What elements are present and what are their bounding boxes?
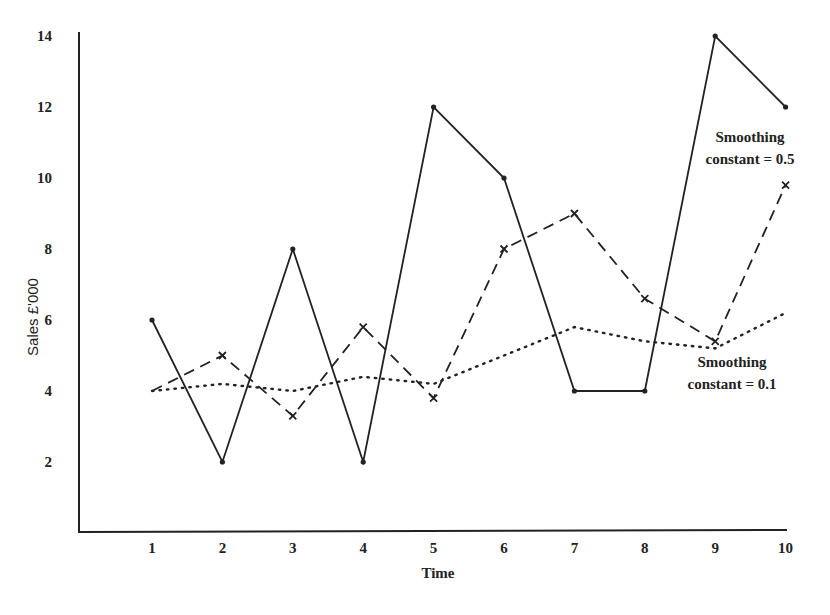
- x-tick-label: 4: [359, 540, 367, 556]
- y-tick-label: 14: [37, 28, 53, 44]
- y-tick-label: 4: [45, 383, 53, 399]
- series-lines: [149, 33, 789, 464]
- data-point-x-icon: [712, 338, 719, 345]
- data-point-dot-icon: [361, 459, 366, 464]
- x-tick-label: 2: [219, 540, 227, 556]
- y-tick-label: 12: [37, 99, 52, 115]
- annotation-text: Smoothing: [697, 354, 767, 370]
- data-point-x-icon: [501, 246, 508, 253]
- annotation-text: constant = 0.5: [706, 151, 795, 167]
- y-tick-label: 2: [45, 454, 53, 470]
- annotation-text: Smoothing: [715, 129, 785, 145]
- data-point-dot-icon: [501, 175, 506, 180]
- data-point-dot-icon: [220, 459, 225, 464]
- x-tick-label: 3: [289, 540, 297, 556]
- data-point-dot-icon: [713, 33, 718, 38]
- x-tick-label: 10: [778, 540, 793, 556]
- annotations: Smoothingconstant = 0.5Smoothingconstant…: [688, 129, 795, 392]
- annotation-text: constant = 0.1: [688, 376, 777, 392]
- series-line: [152, 36, 786, 462]
- data-point-x-icon: [430, 395, 437, 402]
- x-tick-label: 5: [430, 540, 438, 556]
- data-point-x-icon: [641, 295, 648, 302]
- series-solid: [149, 33, 788, 464]
- y-tick-labels: 2468101214: [37, 28, 53, 470]
- x-axis-label: Time: [421, 565, 454, 581]
- data-point-x-icon: [782, 182, 789, 189]
- data-point-x-icon: [571, 210, 578, 217]
- data-point-dot-icon: [783, 104, 788, 109]
- x-tick-label: 9: [711, 540, 719, 556]
- x-tick-label: 1: [148, 540, 156, 556]
- x-axis-line: [78, 530, 787, 532]
- data-point-dot-icon: [149, 317, 154, 322]
- data-point-dot-icon: [642, 388, 647, 393]
- data-point-x-icon: [219, 352, 226, 359]
- y-tick-label: 6: [45, 312, 53, 328]
- y-tick-label: 10: [37, 170, 52, 186]
- data-point-x-icon: [289, 412, 296, 419]
- data-point-dot-icon: [572, 388, 577, 393]
- x-tick-label: 7: [571, 540, 579, 556]
- data-point-dot-icon: [431, 104, 436, 109]
- data-point-x-icon: [360, 324, 367, 331]
- y-axis-label: Sales £'000: [24, 278, 41, 356]
- exponential-smoothing-chart: 2468101214 12345678910 Time Sales £'000 …: [0, 0, 830, 615]
- x-tick-labels: 12345678910: [148, 540, 793, 556]
- data-point-dot-icon: [290, 246, 295, 251]
- x-tick-label: 6: [500, 540, 508, 556]
- y-tick-label: 8: [45, 241, 53, 257]
- x-tick-label: 8: [641, 540, 649, 556]
